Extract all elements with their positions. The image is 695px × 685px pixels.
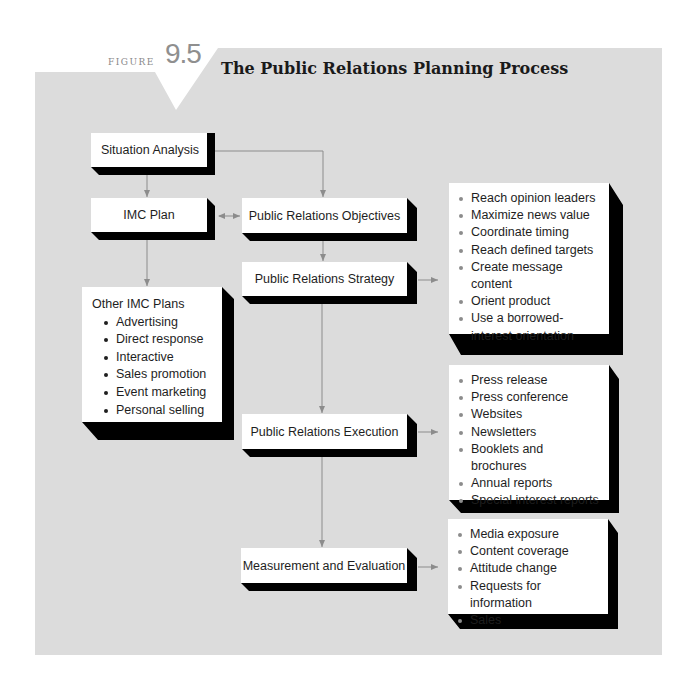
list-item: Coordinate timing <box>457 224 601 241</box>
list-item: Media exposure <box>456 526 600 543</box>
list-item: Advertising <box>102 314 212 332</box>
list-item: Booklets and brochures <box>457 441 601 475</box>
node-situation-analysis: Situation Analysis <box>91 133 207 167</box>
list-item: Create message content <box>457 259 601 293</box>
node-other-imc-plans: Other IMC Plans Advertising Direct respo… <box>82 287 222 422</box>
list-item: Websites <box>457 406 601 423</box>
node-measurement-evaluation: Measurement and Evaluation <box>241 548 407 583</box>
list-item: Special interest reports <box>457 492 601 509</box>
node-pr-objectives: Public Relations Objectives <box>242 198 407 233</box>
measurement-list: Media exposure Content coverage Attitude… <box>456 526 600 629</box>
list-item: Sales <box>456 612 600 629</box>
list-item: Press conference <box>457 389 601 406</box>
list-item: Use a borrowed-interest orientation <box>457 310 601 344</box>
list-item: Event marketing <box>102 384 212 402</box>
node-imc-plan: IMC Plan <box>91 198 207 232</box>
situation-analysis-label: Situation Analysis <box>91 133 207 167</box>
pr-strategy-label: Public Relations Strategy <box>242 262 407 296</box>
list-item: Maximize news value <box>457 207 601 224</box>
other-imc-heading: Other IMC Plans <box>92 296 212 314</box>
strategy-tactics-list-box: Reach opinion leaders Maximize news valu… <box>449 183 609 334</box>
list-item: Reach opinion leaders <box>457 190 601 207</box>
measurement-evaluation-label: Measurement and Evaluation <box>241 548 407 583</box>
list-item: Reach defined targets <box>457 242 601 259</box>
list-item: Requests for information <box>456 578 600 612</box>
list-item: Interactive <box>102 349 212 367</box>
imc-plan-label: IMC Plan <box>91 198 207 232</box>
list-item: Content coverage <box>456 543 600 560</box>
pr-objectives-label: Public Relations Objectives <box>242 198 407 233</box>
execution-tools-list-box: Press release Press conference Websites … <box>449 365 609 500</box>
list-item: Personal selling <box>102 402 212 420</box>
figure-label: FIGURE <box>108 57 155 67</box>
measurement-criteria-list-box: Media exposure Content coverage Attitude… <box>448 519 608 614</box>
strategy-list: Reach opinion leaders Maximize news valu… <box>457 190 601 345</box>
execution-list: Press release Press conference Websites … <box>457 372 601 510</box>
figure-title: The Public Relations Planning Process <box>221 59 568 78</box>
list-item: Newsletters <box>457 424 601 441</box>
list-item: Orient product <box>457 293 601 310</box>
pr-execution-label: Public Relations Execution <box>242 414 407 449</box>
node-pr-strategy: Public Relations Strategy <box>242 262 407 296</box>
other-imc-list: Advertising Direct response Interactive … <box>92 314 212 420</box>
list-item: Direct response <box>102 331 212 349</box>
list-item: Attitude change <box>456 560 600 577</box>
figure-number: 9.5 <box>165 38 201 70</box>
node-pr-execution: Public Relations Execution <box>242 414 407 449</box>
list-item: Sales promotion <box>102 366 212 384</box>
list-item: Annual reports <box>457 475 601 492</box>
list-item: Press release <box>457 372 601 389</box>
